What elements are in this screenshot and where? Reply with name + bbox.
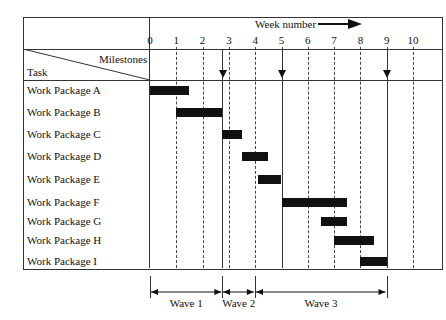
week-tick: 4 (245, 34, 265, 46)
task-label: Work Package C (27, 128, 101, 140)
task-bar (334, 236, 373, 245)
wave-boundary (387, 276, 388, 298)
milestone-arrow-icon (219, 70, 227, 78)
milestone-arrow-icon (278, 70, 286, 78)
task-bar (321, 217, 347, 226)
task-label: Work Package D (27, 150, 101, 162)
task-label: Work Package G (27, 215, 101, 227)
week-tick: 7 (324, 34, 344, 46)
week-gridline (229, 47, 230, 268)
wave-label: Wave 1 (168, 297, 204, 309)
wave-span-arrow-icon (222, 288, 255, 296)
week-tick: 2 (193, 34, 213, 46)
task-column-divider (149, 17, 150, 268)
task-label: Work Package F (27, 196, 99, 208)
task-label: Work Package E (27, 173, 100, 185)
wave-label: Wave 3 (303, 297, 339, 309)
wave-label: Wave 2 (221, 297, 257, 309)
task-bar (360, 257, 386, 266)
week-tick: 5 (272, 34, 292, 46)
milestones-header: Milestones (99, 53, 147, 65)
week-gridline (413, 47, 414, 268)
milestone-line (387, 49, 388, 268)
week-gridline (360, 47, 361, 268)
week-gridline (308, 47, 309, 268)
task-label: Work Package H (27, 234, 101, 246)
task-bar (282, 198, 348, 207)
milestone-arrow-icon (383, 70, 391, 78)
milestone-line (222, 49, 223, 268)
week-tick: 8 (350, 34, 370, 46)
task-label: Work Package B (27, 106, 101, 118)
week-tick: 10 (403, 34, 423, 46)
week-tick: 6 (298, 34, 318, 46)
wave-span-arrow-icon (150, 288, 222, 296)
arrow-right-icon (318, 19, 362, 29)
task-label: Work Package I (27, 255, 97, 267)
week-tick: 3 (219, 34, 239, 46)
gantt-chart: Milestones Task Week number 012345678910… (0, 0, 446, 320)
milestone-line (282, 49, 283, 268)
task-bar (222, 130, 242, 139)
task-bar (242, 152, 268, 161)
week-gridline (176, 47, 177, 268)
week-gridline (334, 47, 335, 268)
task-bar (176, 108, 222, 117)
task-header: Task (27, 66, 48, 78)
axis-title: Week number (255, 18, 316, 30)
week-tick: 0 (140, 34, 160, 46)
week-tick: 9 (377, 34, 397, 46)
task-bar (150, 86, 189, 95)
task-label: Work Package A (27, 84, 101, 96)
week-tick: 1 (166, 34, 186, 46)
task-bar (258, 175, 282, 184)
week-number-axis-label: Week number (255, 18, 362, 30)
week-gridline (203, 47, 204, 268)
wave-span-arrow-icon (255, 288, 387, 296)
